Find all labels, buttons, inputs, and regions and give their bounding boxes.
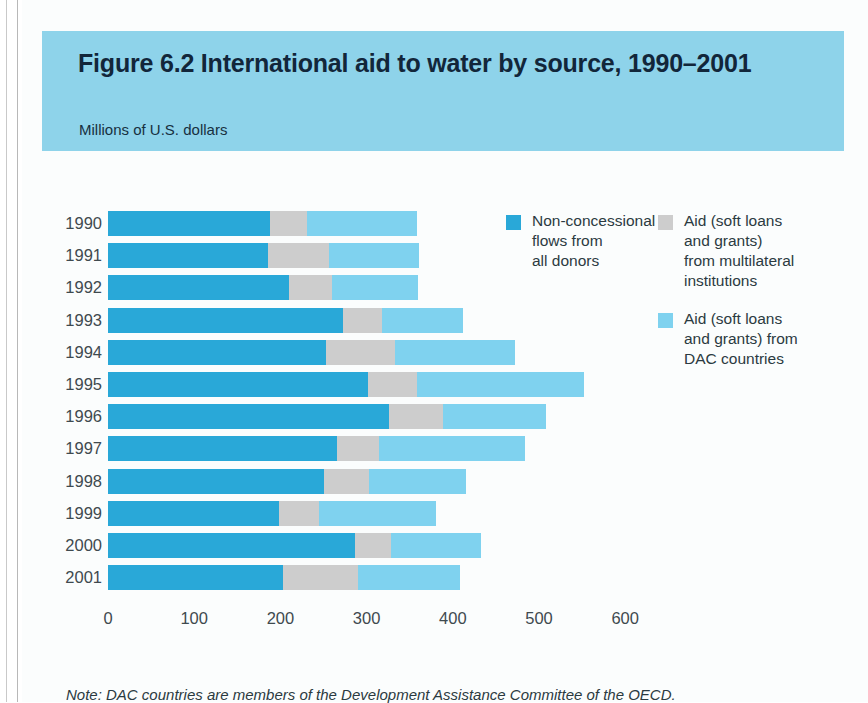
stacked-bar-1996[interactable]	[108, 404, 546, 429]
legend-swatch-non-concessional-icon	[506, 215, 521, 230]
bar-segment-non-concessional[interactable]	[108, 308, 343, 333]
bar-row: 1996	[22, 402, 868, 432]
bar-row: 2001	[22, 563, 868, 593]
bar-segment-non-concessional[interactable]	[108, 243, 268, 268]
legend-column-right: Aid (soft loans and grants) from multila…	[658, 211, 858, 383]
bar-segment-multilateral[interactable]	[368, 372, 417, 397]
chart-plot-area: 1990199119921993199419951996199719981999…	[22, 151, 868, 631]
bar-row: 1997	[22, 434, 868, 464]
y-axis-label-1991: 1991	[34, 246, 102, 265]
stacked-bar-1994[interactable]	[108, 340, 515, 365]
bar-segment-multilateral[interactable]	[355, 533, 391, 558]
x-axis-tick-500: 500	[525, 609, 553, 628]
x-axis-tick-100: 100	[180, 609, 208, 628]
bar-segment-multilateral[interactable]	[279, 501, 320, 526]
bar-row: 1998	[22, 467, 868, 497]
bar-segment-non-concessional[interactable]	[108, 436, 337, 461]
bar-segment-dac[interactable]	[307, 211, 417, 236]
stacked-bar-2001[interactable]	[108, 565, 460, 590]
y-axis-label-1996: 1996	[34, 407, 102, 426]
y-axis-label-1999: 1999	[34, 504, 102, 523]
bar-segment-dac[interactable]	[332, 275, 418, 300]
page-gutter-line-inner	[17, 0, 18, 702]
bar-segment-non-concessional[interactable]	[108, 565, 283, 590]
bar-segment-multilateral[interactable]	[324, 469, 370, 494]
bar-segment-dac[interactable]	[417, 372, 583, 397]
bar-segment-multilateral[interactable]	[283, 565, 358, 590]
bar-segment-non-concessional[interactable]	[108, 501, 279, 526]
legend-label-dac: Aid (soft loans and grants) from DAC cou…	[684, 309, 858, 369]
y-axis-label-2000: 2000	[34, 536, 102, 555]
bar-segment-multilateral[interactable]	[326, 340, 395, 365]
bar-segment-non-concessional[interactable]	[108, 404, 389, 429]
stacked-bar-1992[interactable]	[108, 275, 418, 300]
y-axis-label-1998: 1998	[34, 472, 102, 491]
legend-entry-non-concessional: Non-concessional flows from all donors	[506, 211, 666, 271]
bar-segment-non-concessional[interactable]	[108, 533, 355, 558]
legend-entry-multilateral: Aid (soft loans and grants) from multila…	[658, 211, 858, 291]
stacked-bar-1997[interactable]	[108, 436, 525, 461]
bar-segment-dac[interactable]	[319, 501, 436, 526]
bar-segment-multilateral[interactable]	[268, 243, 328, 268]
bar-row: 2000	[22, 531, 868, 561]
figure-note: Note: DAC countries are members of the D…	[66, 686, 866, 703]
y-axis-label-1990: 1990	[34, 214, 102, 233]
bar-segment-non-concessional[interactable]	[108, 469, 324, 494]
x-axis-tick-400: 400	[439, 609, 467, 628]
legend-swatch-dac-icon	[658, 313, 673, 328]
bar-segment-multilateral[interactable]	[337, 436, 378, 461]
legend-label-multilateral: Aid (soft loans and grants) from multila…	[684, 211, 858, 291]
page-gutter-line-outer	[6, 0, 7, 702]
x-axis-tick-600: 600	[611, 609, 639, 628]
bar-segment-dac[interactable]	[382, 308, 463, 333]
y-axis-label-1992: 1992	[34, 278, 102, 297]
bar-segment-dac[interactable]	[379, 436, 526, 461]
stacked-bar-1993[interactable]	[108, 308, 463, 333]
bar-segment-multilateral[interactable]	[289, 275, 332, 300]
x-axis-tick-300: 300	[353, 609, 381, 628]
bar-segment-multilateral[interactable]	[343, 308, 382, 333]
y-axis-label-1994: 1994	[34, 343, 102, 362]
stacked-bar-1990[interactable]	[108, 211, 417, 236]
bar-segment-non-concessional[interactable]	[108, 372, 368, 397]
y-axis-label-1997: 1997	[34, 439, 102, 458]
bar-segment-non-concessional[interactable]	[108, 275, 289, 300]
legend-swatch-multilateral-icon	[658, 215, 673, 230]
figure-subtitle: Millions of U.S. dollars	[79, 121, 227, 138]
figure-title: Figure 6.2 International aid to water by…	[78, 48, 818, 79]
y-axis-label-1993: 1993	[34, 311, 102, 330]
x-axis: 0100200300400500600	[22, 609, 868, 639]
bar-row: 1999	[22, 499, 868, 529]
bar-segment-dac[interactable]	[369, 469, 466, 494]
bar-segment-dac[interactable]	[391, 533, 482, 558]
legend-entry-dac: Aid (soft loans and grants) from DAC cou…	[658, 309, 858, 369]
legend-label-non-concessional: Non-concessional flows from all donors	[532, 211, 666, 271]
legend-column-left: Non-concessional flows from all donors	[506, 211, 666, 285]
figure-header-band: Figure 6.2 International aid to water by…	[42, 31, 844, 151]
bar-segment-dac[interactable]	[329, 243, 420, 268]
stacked-bar-1998[interactable]	[108, 469, 466, 494]
bar-segment-dac[interactable]	[358, 565, 460, 590]
y-axis-label-2001: 2001	[34, 568, 102, 587]
x-axis-tick-0: 0	[103, 609, 112, 628]
y-axis-label-1995: 1995	[34, 375, 102, 394]
stacked-bar-1995[interactable]	[108, 372, 584, 397]
bar-segment-dac[interactable]	[443, 404, 546, 429]
bar-segment-multilateral[interactable]	[270, 211, 307, 236]
stacked-bar-1999[interactable]	[108, 501, 436, 526]
bar-segment-multilateral[interactable]	[389, 404, 443, 429]
x-axis-tick-200: 200	[267, 609, 295, 628]
bar-segment-dac[interactable]	[395, 340, 515, 365]
bar-segment-non-concessional[interactable]	[108, 211, 270, 236]
stacked-bar-2000[interactable]	[108, 533, 481, 558]
chart-legend: Non-concessional flows from all donors A…	[506, 211, 856, 361]
bar-segment-non-concessional[interactable]	[108, 340, 326, 365]
figure-container: Figure 6.2 International aid to water by…	[22, 0, 868, 702]
stacked-bar-1991[interactable]	[108, 243, 419, 268]
